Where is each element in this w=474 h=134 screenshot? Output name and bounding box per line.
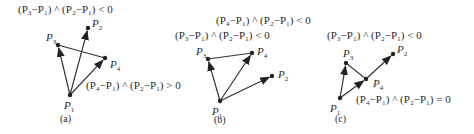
point-label-p4: P4 bbox=[256, 45, 268, 60]
vector-p4-p2 bbox=[366, 56, 391, 79]
condition-label: (P₃−P₁) ^ (P₂−P₁) < 0 bbox=[175, 29, 270, 42]
point-label-p2: P2 bbox=[277, 68, 289, 83]
vector-p1-p3 bbox=[340, 66, 345, 98]
point-label-p3: P3 bbox=[45, 31, 57, 46]
figure-caption: (b) bbox=[214, 114, 226, 126]
point-p4 bbox=[103, 56, 107, 60]
point-p4 bbox=[364, 77, 368, 81]
vector-p1-p3 bbox=[209, 62, 220, 101]
point-label-p2: P2 bbox=[396, 43, 408, 58]
point-label-p1: P1 bbox=[63, 99, 75, 114]
point-p4 bbox=[250, 51, 254, 55]
condition-label: (P₄−P₁) ^ (P₂−P₁) < 0 bbox=[216, 14, 311, 27]
condition-label: (P₃−P₁) ^ (P₂−P₁) < 0 bbox=[327, 29, 422, 42]
figure-caption: (a) bbox=[60, 113, 71, 125]
point-label-p3: P3 bbox=[342, 47, 354, 62]
condition-label: (P₄−P₁) ^ (P₂−P₁) > 0 bbox=[86, 79, 181, 92]
point-p2 bbox=[86, 26, 90, 30]
point-p3 bbox=[344, 61, 348, 65]
point-p3 bbox=[56, 43, 60, 47]
figure-a: P1P2P3P4(P₃−P₁) ^ (P₂−P₁) < 0(P₄−P₁) ^ (… bbox=[18, 3, 181, 125]
segment-p3-p4 bbox=[208, 53, 252, 59]
point-p2 bbox=[270, 74, 274, 78]
condition-label: (P₄−P₁) ^ (P₂−P₁) = 0 bbox=[356, 93, 451, 106]
point-label-p4: P4 bbox=[109, 58, 121, 73]
point-p1 bbox=[68, 93, 72, 97]
vector-p1-p3 bbox=[59, 48, 70, 95]
point-p2 bbox=[391, 52, 395, 56]
condition-label: (P₃−P₁) ^ (P₂−P₁) < 0 bbox=[18, 3, 113, 16]
point-p1 bbox=[338, 96, 342, 100]
figure-c: P1P2P3P4(P₃−P₁) ^ (P₂−P₁) < 0(P₄−P₁) ^ (… bbox=[327, 29, 451, 125]
point-p1 bbox=[218, 99, 222, 103]
point-label-p2: P2 bbox=[91, 17, 103, 32]
point-label-p3: P3 bbox=[195, 45, 207, 60]
point-label-p4: P4 bbox=[372, 77, 384, 92]
segment-p3-p4 bbox=[346, 63, 366, 79]
figure-b: P1P2P3P4(P₄−P₁) ^ (P₂−P₁) < 0(P₃−P₁) ^ (… bbox=[175, 14, 311, 126]
point-p3 bbox=[206, 57, 210, 61]
figure-caption: (c) bbox=[335, 113, 346, 125]
cross-product-orientation-diagram: P1P2P3P4(P₃−P₁) ^ (P₂−P₁) < 0(P₄−P₁) ^ (… bbox=[0, 0, 474, 134]
